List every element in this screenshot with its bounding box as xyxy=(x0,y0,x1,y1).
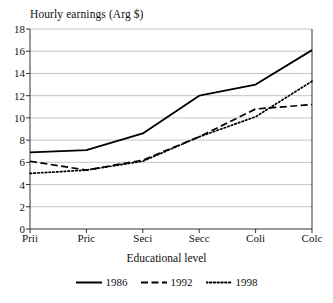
legend-swatch-solid xyxy=(76,278,102,287)
y-tick-label: 18 xyxy=(3,23,25,35)
axis-spines xyxy=(30,29,312,229)
x-axis-title: Educational level xyxy=(0,252,333,264)
gridlines xyxy=(30,29,312,207)
x-tick-label: Pric xyxy=(78,232,96,244)
series-line-1986 xyxy=(30,50,312,152)
y-tick-label: 14 xyxy=(3,67,25,79)
data-series xyxy=(30,50,312,173)
y-tick-label: 16 xyxy=(3,45,25,57)
x-tick-label: Prii xyxy=(22,232,38,244)
chart-figure: Hourly earnings (Arg $) 024681012141618 … xyxy=(0,0,333,303)
y-tick-label: 12 xyxy=(3,90,25,102)
legend-swatch-dashed xyxy=(141,278,167,287)
series-line-1998 xyxy=(30,81,312,173)
x-tick-label: Coli xyxy=(246,232,265,244)
y-tick-label: 4 xyxy=(3,179,25,191)
y-tick-label: 6 xyxy=(3,156,25,168)
y-tick-label: 8 xyxy=(3,134,25,146)
legend-label: 1992 xyxy=(171,276,193,288)
y-tick-label: 10 xyxy=(3,112,25,124)
x-tick-label: Colc xyxy=(302,232,323,244)
legend-swatch-dotted xyxy=(206,278,232,287)
legend-item-1986[interactable]: 1986 xyxy=(76,276,128,288)
chart-legend: 198619921998 xyxy=(0,276,333,288)
legend-item-1998[interactable]: 1998 xyxy=(206,276,258,288)
legend-item-1992[interactable]: 1992 xyxy=(141,276,193,288)
legend-label: 1998 xyxy=(236,276,258,288)
x-tick-label: Secc xyxy=(189,232,210,244)
legend-label: 1986 xyxy=(106,276,128,288)
tick-marks xyxy=(26,29,312,233)
x-tick-label: Seci xyxy=(133,232,152,244)
y-tick-label: 2 xyxy=(3,201,25,213)
